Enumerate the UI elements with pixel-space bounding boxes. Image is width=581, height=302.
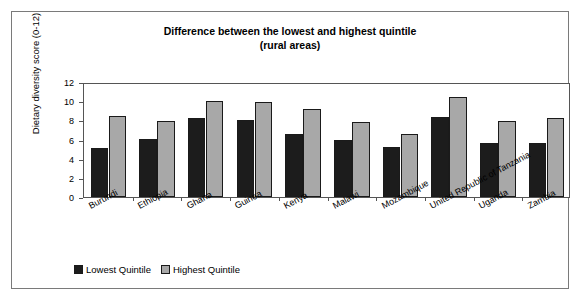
- x-axis-tick-label: Burundi: [87, 187, 119, 210]
- x-axis-labels: BurundiEthiopiaGhanaGuineaKenyaMalawiMoz…: [12, 12, 581, 302]
- x-axis-tick-label: Uganda: [477, 187, 510, 211]
- chart-frame: Difference between the lowest and highes…: [11, 11, 569, 289]
- x-axis-tick-label: Ghana: [185, 189, 214, 211]
- x-axis-tick-label: Zambia: [526, 188, 557, 211]
- legend-swatch-icon: [161, 265, 170, 274]
- x-axis-tick-label: Malawi: [331, 189, 360, 211]
- x-axis-tick-label: Mozambique: [380, 178, 430, 211]
- x-axis-tick-label: Ethiopia: [136, 187, 169, 211]
- x-axis-tick-label: Guinea: [233, 188, 263, 210]
- chart-legend: Lowest QuintileHighest Quintile: [74, 264, 240, 275]
- legend-label: Lowest Quintile: [86, 264, 151, 275]
- legend-item: Highest Quintile: [161, 264, 240, 275]
- x-axis-tick-label: Kenya: [282, 190, 309, 211]
- legend-item: Lowest Quintile: [74, 264, 151, 275]
- legend-swatch-icon: [74, 265, 83, 274]
- legend-label: Highest Quintile: [173, 264, 240, 275]
